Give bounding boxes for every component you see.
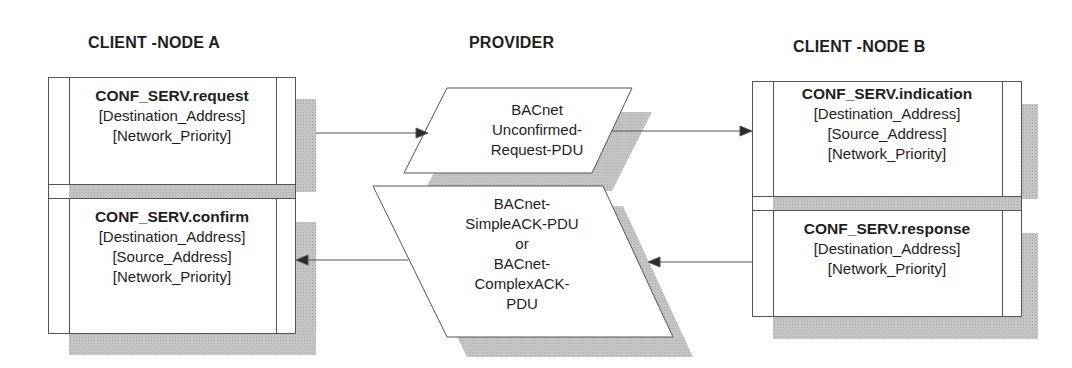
pdu-line: Request-PDU: [462, 140, 612, 160]
pdu-line: BACnet-: [447, 254, 597, 274]
pdu-line: PDU: [447, 294, 597, 314]
pdu-line: SimpleACK-PDU: [447, 214, 597, 234]
request-pdu-label: BACnet Unconfirmed- Request-PDU: [462, 100, 612, 160]
arrowhead-icon: [740, 126, 752, 136]
ack-pdu-label: BACnet- SimpleACK-PDU or BACnet- Complex…: [447, 194, 597, 314]
pdu-line: or: [447, 234, 597, 254]
pdu-line: ComplexACK-: [447, 274, 597, 294]
arrowhead-icon: [296, 255, 308, 265]
pdu-line: BACnet: [462, 100, 612, 120]
pdu-line: Unconfirmed-: [462, 120, 612, 140]
pdu-line: BACnet-: [447, 194, 597, 214]
